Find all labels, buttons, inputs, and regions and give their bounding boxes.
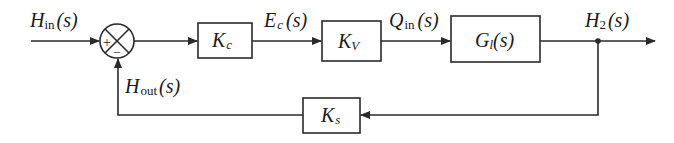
output-signal-label: H2(s) [584, 9, 629, 32]
plus-sign: + [103, 35, 111, 50]
block-diagram: Hin(s) + − Kc Ec(s) KV Qin(s) Gl(s) [0, 0, 674, 143]
error-signal-label: Ec(s) [263, 9, 307, 32]
minus-sign: − [113, 45, 120, 60]
sensor-block: Ks [303, 98, 360, 133]
input-signal-label: Hin(s) [29, 9, 78, 32]
svg-text:Gl(s): Gl(s) [475, 29, 515, 52]
flow-signal-label: Qin(s) [389, 9, 439, 32]
feedback-signal-label: Hout(s) [124, 75, 181, 98]
summing-junction: + − [100, 24, 134, 60]
valve-block: KV [322, 21, 381, 61]
plant-block: Gl(s) [451, 16, 540, 62]
controller-block: Kc [198, 23, 252, 58]
